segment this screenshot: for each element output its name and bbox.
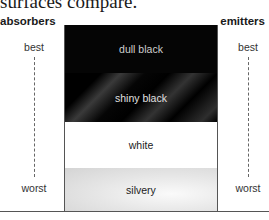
surface-label: dull black <box>119 43 163 55</box>
surface-silvery: silvery <box>65 168 217 211</box>
emitters-worst-label: worst <box>228 182 268 194</box>
absorbers-worst-label: worst <box>14 182 54 194</box>
caption-text: surfaces compare. <box>0 0 137 13</box>
surface-shiny-black: shiny black <box>65 73 217 122</box>
absorbers-header: absorbers <box>0 15 56 27</box>
surface-dull-black: dull black <box>65 25 217 73</box>
surface-white: white <box>65 122 217 169</box>
emitters-scale-line <box>248 57 249 177</box>
absorbers-best-label: best <box>14 41 54 53</box>
absorbers-scale-line <box>34 57 35 177</box>
surface-label: shiny black <box>115 92 167 104</box>
surface-label: silvery <box>126 184 156 196</box>
surface-column: dull black shiny black white silvery <box>64 25 218 211</box>
emitters-best-label: best <box>228 41 268 53</box>
emitters-header: emitters <box>220 15 265 27</box>
baseline-divider <box>0 211 269 212</box>
surface-label: white <box>129 139 154 151</box>
